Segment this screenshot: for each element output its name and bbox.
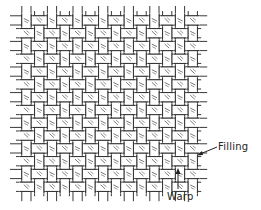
filling-label: Filling (218, 141, 248, 152)
warp-arrow-icon (173, 168, 183, 190)
plain-weave-diagram (0, 0, 261, 210)
filling-arrow-icon (196, 145, 218, 157)
warp-label: Warp (167, 191, 194, 202)
